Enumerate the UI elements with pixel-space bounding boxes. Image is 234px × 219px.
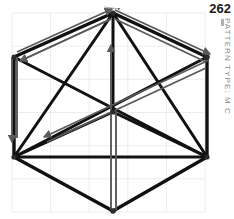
arrow-top-to-upperright-b	[115, 19, 206, 62]
node-upper-left	[12, 55, 17, 60]
plate-sidebar: 262 PATTERN TYPE: M C	[200, 0, 234, 219]
arrow-upperleft-to-top-a	[17, 9, 112, 52]
pattern-diagram	[0, 0, 234, 219]
node-center	[110, 109, 115, 114]
pattern-type-text: PATTERN TYPE: M C	[223, 18, 232, 115]
edge-bottom-lowerleft	[14, 157, 113, 211]
pattern-plate: 262 PATTERN TYPE: M C	[0, 0, 234, 219]
plate-number: 262	[209, 2, 231, 15]
node-top	[110, 10, 115, 15]
edge-lowerright-bottom	[113, 157, 207, 211]
arrow-top-to-upperright-a	[115, 10, 210, 54]
motion-arrows	[12, 7, 210, 210]
node-bottom	[110, 208, 116, 214]
arrow-top-to-upperleft	[20, 19, 111, 61]
arrow-upperright-to-lowerleft-a	[44, 60, 209, 137]
node-lower-left	[11, 154, 16, 159]
pattern-type-label: PATTERN TYPE: M C	[219, 18, 233, 168]
arrow-top-vertex-head	[104, 7, 120, 9]
